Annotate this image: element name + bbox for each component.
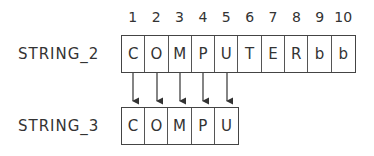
string3-label: STRING_3 (18, 117, 99, 135)
string3-cell: U (215, 108, 238, 144)
string3-cell: O (145, 108, 168, 144)
down-arrow-icon (133, 73, 227, 101)
string3-cell: M (168, 108, 191, 144)
string3-cell: C (122, 108, 145, 144)
string3-cell: P (192, 108, 215, 144)
string3-array: C O M P U (121, 107, 239, 145)
